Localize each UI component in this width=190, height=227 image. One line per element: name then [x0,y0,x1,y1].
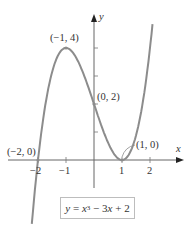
x-axis-label: x [175,143,181,154]
min-point-marker [120,158,123,161]
cubic-graph: y x (−1, 4) (0, 2) (1, 0) (−2, 0) −2 −1 … [0,0,190,227]
y-axis-arrow-icon [91,14,97,22]
root-point-label: (−2, 0) [7,146,36,158]
max-point-marker [64,46,67,49]
cubic-curve [32,24,153,224]
y-axis-label: y [98,11,104,22]
equation-box: y = x 3 − 3 x + 2 [60,197,135,219]
equation-term3: + 2 [112,202,129,214]
max-point-label: (−1, 4) [50,32,79,44]
min-point-label: (1, 0) [136,139,159,151]
equation-term2: − 3 [90,202,107,214]
root-point-marker [36,158,39,161]
tick-label-1: 1 [119,165,124,176]
y-intercept-label: (0, 2) [97,91,120,103]
tick-label-neg2: −2 [30,165,41,176]
x-axis-arrow-icon [176,157,184,163]
tick-label-2: 2 [147,165,152,176]
y-intercept-marker [92,102,95,105]
equation-equals: = [70,202,82,214]
tick-label-neg1: −1 [59,165,70,176]
